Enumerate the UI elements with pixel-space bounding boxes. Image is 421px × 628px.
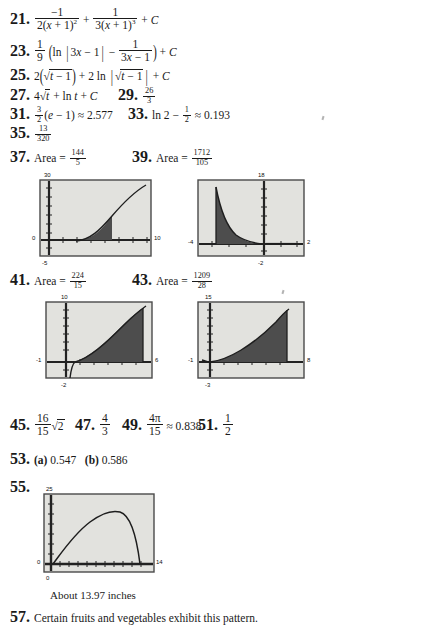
graph-37-ymin-label: -5 — [42, 260, 47, 266]
scan-speck — [321, 116, 324, 120]
graph-39-ymax-label: 18 — [258, 172, 265, 178]
area-word: Area — [156, 275, 178, 287]
graph-43-canvas — [196, 300, 306, 382]
graph-55-xzero-label: 0 — [46, 575, 49, 581]
graph-41-canvas — [44, 300, 154, 382]
equals-sign: = — [59, 152, 66, 164]
graph-39-canvas — [196, 178, 306, 260]
answer-item-37: 37. Area = 1445 — [10, 148, 87, 168]
value-53a: 0.547 — [50, 454, 76, 466]
equals-sign: = — [181, 275, 188, 287]
graph-55-yzero-label: 0 — [37, 559, 40, 565]
answer-body: Area = 1445 — [34, 152, 87, 164]
answer-body: 1615√2 — [34, 420, 65, 432]
answer-item-35: 35. 13320 — [10, 124, 52, 144]
answer-item-31: 31. 32(e − 1) ≈ 2.577 — [10, 105, 113, 125]
caption-55: About 13.97 inches — [50, 589, 136, 601]
answer-item-53: 53. (a) 0.547 (b) 0.586 — [10, 450, 128, 468]
area-word: Area — [156, 152, 178, 164]
graph-39: 18 -4 2 -2 — [196, 178, 306, 260]
answer-item-25: 25. 2(√t − 1) + 2 ln |√t − 1| + C — [10, 66, 170, 84]
graph-39-xmax-label: 2 — [307, 239, 310, 245]
graph-55-xmax-label: 14 — [156, 559, 163, 565]
graph-55-ymax-label: 25 — [46, 486, 53, 492]
answer-body: 4√t + ln t + C — [34, 90, 97, 102]
approx-value-49: ≈ 0.838 — [166, 420, 201, 432]
answer-item-51: 51. 12 — [198, 412, 234, 437]
area-word: Area — [34, 275, 56, 287]
answer-body: 263 — [142, 90, 156, 102]
sublabel-a: (a) — [34, 454, 47, 466]
equals-sign: = — [181, 152, 188, 164]
answer-number: 27. — [10, 86, 30, 103]
answer-number: 29. — [118, 86, 138, 103]
graph-41-ymax-label: 10 — [61, 294, 68, 300]
graph-55: 25 0 0 14 — [40, 492, 158, 576]
answer-body: Area = 120928 — [156, 275, 213, 287]
answer-number: 43. — [132, 271, 152, 288]
graph-55-canvas — [40, 492, 158, 576]
answer-number: 39. — [132, 148, 152, 165]
graph-41-xmax-label: 6 — [155, 357, 158, 363]
graph-37: 30 0 10 -5 — [36, 178, 153, 260]
graph-39-ymin-label: -2 — [258, 260, 263, 266]
answer-number: 31. — [10, 105, 30, 122]
answer-number: 21. — [10, 10, 30, 27]
graph-39-xmin-label: -4 — [188, 239, 193, 245]
answer-body: 2(√t − 1) + 2 ln |√t − 1| + C — [34, 70, 170, 82]
graph-41-ymin-label: -2 — [61, 382, 66, 388]
answer-item-33: 33. ln 2 − 12 ≈ 0.193 — [128, 105, 230, 125]
answer-number: 49. — [122, 416, 142, 433]
graph-43: 15 -1 8 -3 — [196, 300, 306, 382]
answer-number: 45. — [10, 416, 30, 433]
answer-item-57: 57. Certain fruits and vegetables exhibi… — [10, 608, 258, 626]
answer-number: 35. — [10, 124, 30, 141]
graph-41-xmin-label: -1 — [36, 357, 41, 363]
answer-number: 53. — [10, 450, 30, 467]
answer-number: 23. — [10, 42, 30, 59]
graph-43-ymin-label: -3 — [205, 382, 210, 388]
graph-37-ymax-label: 30 — [44, 172, 51, 178]
answer-item-43: 43. Area = 120928 — [132, 271, 213, 291]
answer-body: 32(e − 1) ≈ 2.577 — [34, 109, 113, 121]
sublabel-b: (b) — [85, 454, 99, 466]
answer-item-45: 45. 1615√2 — [10, 412, 65, 437]
scan-speck — [281, 290, 284, 294]
answer-item-27: 27. 4√t + ln t + C — [10, 86, 97, 104]
area-word: Area — [34, 152, 56, 164]
answer-item-47: 47. 43 — [75, 412, 111, 437]
equals-sign: = — [59, 275, 66, 287]
graph-41: 10 -1 6 -2 — [44, 300, 154, 382]
answer-item-21: 21. −12(x + 1)2 + 13(x + 1)3 + C — [10, 6, 158, 31]
answer-number: 33. — [128, 105, 148, 122]
answer-item-23: 23. 19 (ln |3x − 1| − 13x − 1) + C — [10, 38, 177, 63]
answer-number: 25. — [10, 66, 30, 83]
answer-number: 55. — [10, 478, 30, 495]
answer-number: 57. — [10, 608, 30, 625]
answer-body: Area = 1712105 — [156, 152, 213, 164]
answer-body: Certain fruits and vegetables exhibit th… — [34, 612, 258, 624]
answer-body: 4π15 ≈ 0.838 — [146, 420, 202, 432]
answer-body: 12 — [222, 420, 234, 432]
approx-value-33: ≈ 0.193 — [195, 109, 230, 121]
graph-37-xmax-label: 10 — [154, 235, 161, 241]
graph-37-canvas — [36, 178, 153, 260]
approx-value-31: ≈ 2.577 — [78, 109, 113, 121]
answer-item-49: 49. 4π15 ≈ 0.838 — [122, 412, 202, 437]
answer-body: Area = 22415 — [34, 275, 87, 287]
answer-number: 47. — [75, 416, 95, 433]
graph-43-xmax-label: 8 — [307, 357, 310, 363]
answer-item-41: 41. Area = 22415 — [10, 271, 87, 291]
answer-body: 43 — [99, 420, 111, 432]
graph-43-xmin-label: -1 — [188, 357, 193, 363]
answer-item-29: 29. 263 — [118, 86, 156, 106]
value-53b: 0.586 — [102, 454, 128, 466]
answer-body: 13320 — [34, 128, 52, 140]
answer-body: −12(x + 1)2 + 13(x + 1)3 + C — [34, 14, 158, 26]
graph-43-ymax-label: 15 — [205, 294, 212, 300]
graph-37-yzero-label: 0 — [32, 235, 35, 241]
answer-number: 37. — [10, 148, 30, 165]
answer-number: 51. — [198, 416, 218, 433]
answer-body: 19 (ln |3x − 1| − 13x − 1) + C — [34, 46, 177, 58]
answer-number: 41. — [10, 271, 30, 288]
